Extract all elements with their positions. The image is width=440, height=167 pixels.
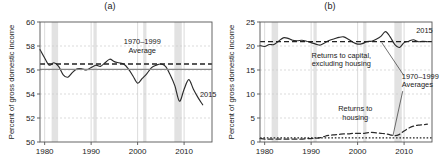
housing-annotation-line2: housing: [342, 113, 368, 122]
y-tick-label: 50: [26, 138, 35, 147]
x-tick-label: 1990: [302, 147, 320, 156]
recession-band-3: [174, 22, 181, 142]
recession-band-2: [363, 22, 366, 142]
averages-annotation-line2: Averages: [402, 80, 433, 89]
recession-band-1: [313, 22, 316, 142]
y-tick-label: 54: [26, 90, 35, 99]
recession-band-0: [52, 22, 59, 142]
y-tick-label: 25: [246, 18, 255, 27]
panel-a: (a) 5052545658601980199020002010Percent …: [0, 0, 220, 167]
endpoint-label-2015: 2015: [416, 26, 432, 35]
series-1-line: [260, 124, 427, 139]
y-tick-label: 60: [26, 18, 35, 27]
x-tick-label: 1990: [82, 147, 100, 156]
panel-a-plot: 5052545658601980199020002010Percent of g…: [0, 0, 220, 167]
capital-annotation-line1: Returns to capital,: [312, 51, 372, 60]
y-axis-label: Percent of gross domestic income: [7, 25, 16, 139]
endpoint-label-2015: 2015: [200, 90, 216, 99]
average-annotation-line2: Average: [129, 46, 156, 55]
recession-band-0: [272, 22, 279, 142]
capital-annotation-line2: excluding housing: [312, 59, 371, 68]
average-annotation-line1: 1970–1999: [124, 37, 161, 46]
x-tick-label: 2000: [129, 147, 147, 156]
x-tick-label: 2010: [175, 147, 193, 156]
y-tick-label: 58: [26, 42, 35, 51]
x-tick-label: 1980: [256, 147, 274, 156]
recession-band-1: [93, 22, 96, 142]
y-tick-label: 56: [26, 66, 35, 75]
y-axis-label: Percent of gross domestic income: [227, 25, 236, 139]
y-tick-label: 52: [26, 114, 35, 123]
panel-b: (b) 05101520251980199020002010Percent of…: [220, 0, 440, 167]
y-tick-label: 20: [246, 42, 255, 51]
y-tick-label: 15: [246, 66, 255, 75]
x-tick-label: 2010: [395, 147, 413, 156]
x-tick-label: 1980: [36, 147, 54, 156]
figure-container: (a) 5052545658601980199020002010Percent …: [0, 0, 440, 167]
y-tick-label: 0: [251, 138, 256, 147]
x-tick-label: 2000: [349, 147, 367, 156]
panel-b-plot: 05101520251980199020002010Percent of gro…: [220, 0, 440, 167]
y-tick-label: 10: [246, 90, 255, 99]
series-0-line: [260, 32, 427, 48]
y-tick-label: 5: [251, 114, 256, 123]
